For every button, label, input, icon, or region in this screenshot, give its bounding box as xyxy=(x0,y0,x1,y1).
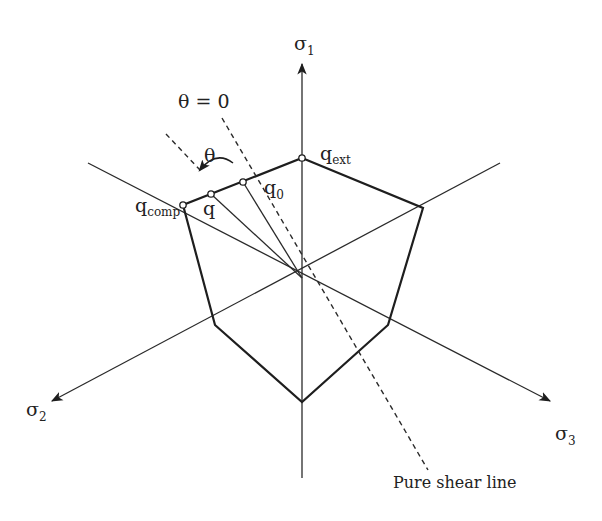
sigma3-label: σ3 xyxy=(555,422,576,448)
yield-surface-hexagon xyxy=(183,158,423,402)
q-label: q xyxy=(203,197,215,219)
sigma3-axis xyxy=(88,163,550,401)
theta-label: θ xyxy=(204,144,215,166)
point-q-comp xyxy=(180,202,186,208)
point-q-ext xyxy=(299,155,305,161)
q-comp-label: qcomp xyxy=(135,194,180,219)
q0-label: q0 xyxy=(264,176,284,202)
deviatoric-plane-diagram: σ1 σ2 σ3 qext qcomp q0 q θ = 0 θ Pure sh… xyxy=(0,0,602,521)
sigma2-label: σ2 xyxy=(26,398,47,424)
q-ext-label: qext xyxy=(320,142,351,167)
theta-zero-label: θ = 0 xyxy=(178,90,230,112)
sigma1-label: σ1 xyxy=(294,32,315,58)
point-q0 xyxy=(240,179,246,185)
theta-reference-line xyxy=(166,134,200,170)
ray-to-q xyxy=(211,194,302,278)
axes xyxy=(52,64,550,478)
pure-shear-label: Pure shear line xyxy=(393,473,517,492)
